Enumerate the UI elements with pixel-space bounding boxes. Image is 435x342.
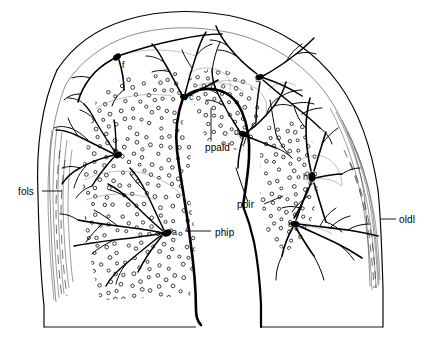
- stipple-cell: [302, 215, 305, 218]
- stipple-cell: [247, 97, 251, 101]
- stipple-cell: [176, 177, 180, 181]
- stipple-cell: [170, 89, 174, 93]
- stipple-cell: [84, 71, 88, 75]
- stipple-cell: [198, 216, 202, 220]
- stipple-cell: [240, 93, 243, 96]
- stipple-cell: [158, 264, 161, 267]
- stipple-cell: [85, 173, 89, 177]
- stipple-cell: [127, 160, 131, 164]
- stipple-cell: [286, 198, 289, 201]
- stipple-cell: [182, 298, 185, 301]
- stipple-cell: [293, 130, 297, 134]
- stipple-cell: [163, 89, 166, 92]
- stipple-cell: [75, 210, 79, 214]
- stipple-cell: [105, 245, 109, 249]
- oldl-fibre-striations: [330, 108, 380, 290]
- stipple-cell: [167, 255, 170, 258]
- stipple-cell: [107, 291, 110, 294]
- stipple-cell: [79, 126, 82, 129]
- stipple-cell: [112, 164, 115, 167]
- stipple-cell: [93, 278, 96, 281]
- region-label-oldl: oldl: [399, 215, 415, 225]
- stipple-cell: [140, 288, 144, 292]
- stipple-cell: [180, 136, 184, 140]
- stipple-cell: [150, 163, 154, 167]
- stipple-cell: [134, 247, 137, 250]
- stipple-cell: [142, 202, 146, 206]
- stipple-cell: [263, 109, 267, 113]
- stipple-cell: [281, 116, 285, 120]
- stipple-cell: [203, 132, 206, 135]
- cell-label-a: a: [172, 228, 177, 237]
- soma-f: [112, 52, 123, 62]
- stipple-cell: [99, 82, 102, 85]
- stipple-cell: [257, 149, 260, 152]
- stipple-cell: [167, 174, 171, 178]
- stipple-cell: [262, 66, 266, 70]
- stipple-cell: [157, 184, 161, 188]
- stipple-cell: [164, 195, 168, 199]
- stipple-cell: [125, 230, 128, 233]
- stipple-cell: [92, 152, 96, 156]
- stipple-cell: [260, 97, 263, 100]
- stipple-cell: [127, 244, 130, 247]
- stipple-cell: [195, 121, 199, 125]
- stipple-cell: [227, 101, 230, 104]
- stipple-cell: [91, 202, 94, 205]
- stipple-cell: [243, 105, 247, 109]
- stipple-cell: [279, 226, 282, 229]
- stipple-cell: [96, 244, 99, 247]
- stipple-cell: [184, 108, 187, 111]
- stipple-cell: [191, 185, 194, 188]
- stipple-cell: [119, 282, 123, 286]
- stipple-cell: [196, 75, 199, 78]
- stipple-cell: [144, 67, 147, 70]
- stipple-cell: [178, 146, 182, 150]
- lateral-lamina-ppir: [243, 206, 261, 327]
- stipple-cell: [179, 232, 182, 235]
- cell-label-f: f: [122, 61, 125, 70]
- neuron-f-branchlets: [64, 77, 124, 107]
- stipple-cell: [139, 280, 143, 284]
- stipple-cell: [271, 201, 274, 204]
- stipple-cell: [108, 112, 112, 116]
- stipple-cell: [267, 126, 271, 130]
- stipple-cell: [261, 198, 265, 202]
- stipple-cell: [133, 294, 136, 297]
- stipple-cell: [126, 203, 130, 207]
- stipple-cell: [103, 74, 107, 78]
- stipple-cell: [147, 276, 150, 279]
- stipple-cell: [146, 182, 149, 185]
- stipple-cell: [140, 241, 144, 245]
- outer-contour: [38, 11, 383, 327]
- stipple-cell: [86, 229, 89, 232]
- stipple-cell: [204, 69, 208, 73]
- stipple-cell: [166, 78, 169, 81]
- stipple-cell: [196, 105, 200, 109]
- stipple-cell: [117, 77, 120, 80]
- stipple-cell: [130, 192, 133, 195]
- stipple-cell: [269, 136, 272, 139]
- stipple-cell: [181, 262, 185, 266]
- stipple-cell: [277, 168, 280, 171]
- stipple-cell: [161, 97, 164, 100]
- stipple-cell: [317, 119, 320, 122]
- stipple-cell: [266, 228, 270, 232]
- stipple-cell: [222, 85, 225, 88]
- stipple-cell: [135, 213, 138, 216]
- stipple-cell: [193, 248, 196, 251]
- stipple-cell: [290, 122, 293, 125]
- stipple-cell: [195, 176, 199, 180]
- stipple-cell: [119, 109, 123, 113]
- cell-label-d: d: [234, 128, 239, 137]
- stipple-cell: [257, 165, 260, 168]
- stipple-cell: [269, 214, 272, 217]
- stipple-cell: [206, 77, 209, 80]
- stipple-cell: [167, 158, 171, 162]
- region-label-phip: phip: [215, 228, 234, 238]
- cell-label-h: h: [303, 173, 308, 182]
- stipple-cell: [196, 130, 199, 133]
- stipple-cell: [256, 60, 259, 63]
- stipple-cell: [112, 67, 116, 71]
- stipple-cell: [158, 250, 162, 254]
